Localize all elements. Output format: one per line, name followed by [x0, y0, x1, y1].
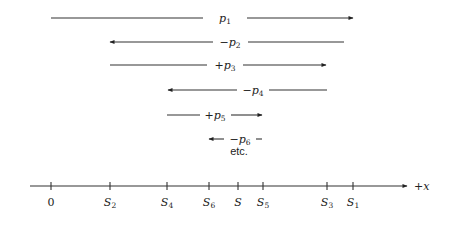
arrow-p4: −p4 [168, 84, 327, 98]
tick-label-s2: S2 [104, 196, 117, 210]
arrow-p3: +p3 [110, 59, 326, 73]
tick-label-s4: S4 [161, 196, 174, 210]
arrow-label-p4: −p4 [242, 84, 263, 98]
tick-label-s5: S5 [257, 196, 270, 210]
x-axis: +x 0 S2 S4 S6 S S5 S3 [30, 180, 430, 210]
axis-label: +x [414, 180, 430, 193]
successive-approximation-diagram: p1 −p2 +p3 −p4 +p5 −p6 etc. +x 0 [0, 0, 451, 229]
tick-label-s3: S3 [321, 196, 334, 210]
tick-label-s: S [234, 196, 242, 209]
arrow-p2: −p2 [110, 36, 344, 50]
arrow-label-p5: +p5 [204, 109, 225, 123]
tick-label-origin: 0 [48, 196, 55, 209]
arrow-label-p1: p1 [219, 12, 231, 26]
arrow-label-p3: +p3 [214, 59, 235, 73]
continuation-text: etc. [230, 145, 248, 157]
arrow-p1: p1 [51, 12, 353, 26]
arrow-p5: +p5 [167, 109, 262, 123]
arrow-label-p2: −p2 [219, 36, 240, 50]
tick-label-s1: S1 [347, 196, 359, 210]
tick-label-s6: S6 [203, 196, 216, 210]
